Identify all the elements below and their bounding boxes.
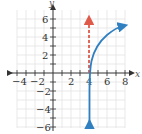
graph: −4 −2 2 4 6 8 6 4 2 −2 −4 −6 x y	[0, 0, 142, 134]
y-tick-label: −6	[36, 122, 51, 133]
y-tick-label: 2	[42, 50, 48, 61]
grid	[17, 10, 125, 128]
x-tick-label: 2	[68, 76, 74, 87]
x-tick-label: 8	[122, 76, 128, 87]
y-tick-label: 6	[42, 14, 48, 25]
x-tick-label: 6	[104, 76, 110, 87]
y-tick-label: −4	[36, 104, 51, 115]
y-tick-label: −2	[36, 86, 51, 97]
y-axis-label: y	[48, 0, 55, 8]
y-tick-label: 4	[42, 32, 48, 43]
x-axis-label: x	[135, 69, 140, 79]
x-tick-label: −4	[12, 76, 27, 87]
